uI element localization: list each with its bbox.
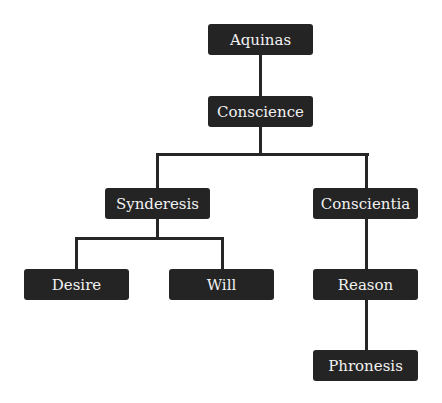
edge-aquinas-conscience [259,55,262,96]
edge-to-conscientia [365,153,368,188]
node-reason: Reason [313,269,418,300]
node-synderesis: Synderesis [105,188,210,219]
edge-reason-phronesis [365,300,368,350]
edge-conscientia-reason [365,219,368,269]
edge-to-will [221,237,224,269]
edge-synderesis-branch [75,237,224,240]
tree-diagram: Aquinas Conscience Synderesis Conscienti… [0,0,442,403]
edge-conscience-down [259,127,262,156]
edge-to-synderesis [156,153,159,188]
node-phronesis: Phronesis [313,350,418,381]
edge-conscience-branch [156,153,369,156]
node-will: Will [169,269,274,300]
node-desire: Desire [24,269,129,300]
node-conscientia: Conscientia [313,188,418,219]
node-conscience: Conscience [208,96,313,127]
node-aquinas: Aquinas [208,24,313,55]
edge-to-desire [75,237,78,269]
